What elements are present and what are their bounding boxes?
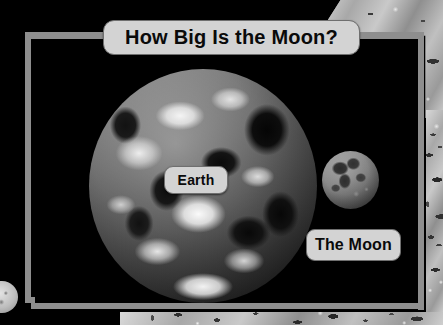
lunar-texture-bottom-strip bbox=[120, 312, 443, 325]
lunar-texture-right-edge bbox=[426, 110, 443, 315]
frame-border-bottom bbox=[31, 303, 424, 309]
moon-label: The Moon bbox=[306, 229, 401, 261]
frame-border-left bbox=[25, 32, 31, 300]
frame-border-corner-step bbox=[25, 297, 35, 303]
slide-canvas: How Big Is the Moon? Earth The Moon bbox=[0, 0, 443, 325]
frame-border-right bbox=[418, 32, 424, 310]
earth-label: Earth bbox=[164, 166, 228, 194]
page-title: How Big Is the Moon? bbox=[103, 20, 360, 55]
edge-sphere-partial bbox=[0, 281, 18, 313]
moon-sphere bbox=[322, 151, 379, 209]
lunar-texture-top-right bbox=[318, 0, 443, 118]
